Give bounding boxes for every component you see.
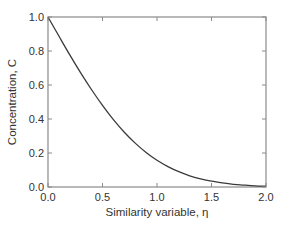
chart: 0.00.20.40.60.81.0 0.00.51.01.52.0 Simil… xyxy=(0,0,286,226)
x-axis-label: Similarity variable, η xyxy=(106,206,209,218)
y-tick-label: 0.8 xyxy=(29,45,44,57)
y-tick-label: 0.6 xyxy=(29,79,44,91)
y-tick-label: 0.4 xyxy=(29,113,44,125)
plot-frame xyxy=(48,17,266,187)
y-axis-label: Concentration, C xyxy=(6,59,18,145)
x-tick-label: 0.0 xyxy=(40,191,55,203)
x-tick-label: 1.0 xyxy=(149,191,164,203)
y-tick-label: 1.0 xyxy=(29,11,44,23)
plot-area xyxy=(48,17,266,187)
y-axis-ticks: 0.00.20.40.60.81.0 xyxy=(29,11,266,193)
data-curve xyxy=(48,17,266,186)
x-tick-label: 1.5 xyxy=(204,191,219,203)
x-tick-label: 0.5 xyxy=(95,191,110,203)
y-tick-label: 0.2 xyxy=(29,147,44,159)
x-axis-ticks: 0.00.51.01.52.0 xyxy=(40,17,273,203)
x-tick-label: 2.0 xyxy=(258,191,273,203)
